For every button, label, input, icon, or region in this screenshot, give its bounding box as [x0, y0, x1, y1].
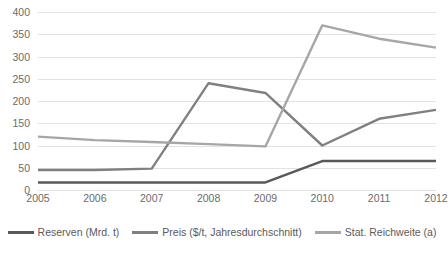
y-axis-tick-label: 100	[0, 140, 30, 152]
legend-swatch-icon	[132, 231, 158, 234]
x-axis-tick-label: 2008	[197, 192, 220, 204]
series-line	[38, 161, 436, 182]
y-axis-tick-label: 200	[0, 95, 30, 107]
x-axis-tick-label: 2012	[424, 192, 447, 204]
x-axis-tick-label: 2006	[83, 192, 106, 204]
legend-label: Reserven (Mrd. t)	[38, 226, 120, 238]
x-axis-tick-label: 2007	[140, 192, 163, 204]
legend-swatch-icon	[8, 231, 34, 234]
x-axis-tick-label: 2009	[254, 192, 277, 204]
y-axis-tick-label: 250	[0, 73, 30, 85]
series-line	[38, 83, 436, 170]
legend-label: Stat. Reichweite (a)	[345, 226, 437, 238]
legend-label: Preis ($/t, Jahresdurchschnitt)	[162, 226, 301, 238]
plot-area	[38, 12, 436, 190]
x-axis-tick-label: 2005	[26, 192, 49, 204]
x-axis-tick-label: 2010	[311, 192, 334, 204]
series-line	[38, 25, 436, 146]
legend-item[interactable]: Stat. Reichweite (a)	[315, 226, 437, 238]
x-axis: 20052006200720082009201020112012	[38, 192, 436, 214]
legend-item[interactable]: Reserven (Mrd. t)	[8, 226, 120, 238]
x-axis-tick-label: 2011	[368, 192, 391, 204]
chart-legend: Reserven (Mrd. t)Preis ($/t, Jahresdurch…	[0, 222, 444, 242]
series-lines	[38, 12, 436, 190]
y-axis-tick-label: 150	[0, 117, 30, 129]
y-axis-tick-label: 350	[0, 28, 30, 40]
y-axis: 050100150200250300350400	[0, 12, 34, 190]
legend-item[interactable]: Preis ($/t, Jahresdurchschnitt)	[132, 226, 301, 238]
gridline	[38, 190, 436, 191]
legend-swatch-icon	[315, 231, 341, 234]
y-axis-tick-label: 50	[0, 162, 30, 174]
y-axis-tick-label: 400	[0, 6, 30, 18]
y-axis-tick-label: 300	[0, 51, 30, 63]
